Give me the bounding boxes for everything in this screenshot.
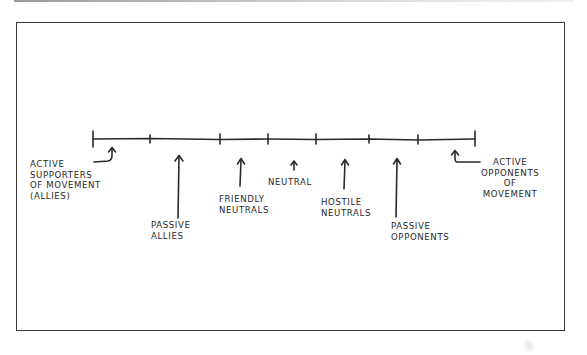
label-passive-opponents: PASSIVE OPPONENTS — [391, 221, 449, 242]
arrow-neutral — [291, 161, 297, 170]
arrow-hostile-neutrals — [342, 160, 349, 190]
label-passive-allies: PASSIVE ALLIES — [151, 220, 190, 241]
scan-smudge — [524, 340, 534, 352]
arrow-passive-allies — [175, 156, 183, 219]
label-active-opponents: ACTIVE OPPONENTS OF MOVEMENT — [481, 157, 539, 199]
label-hostile-neutrals: HOSTILE NEUTRALS — [321, 197, 371, 218]
label-neutral: NEUTRAL — [268, 177, 312, 188]
arrow-friendly-neutrals — [238, 159, 245, 187]
arrow-passive-opponents — [394, 159, 401, 218]
label-active-supporters: ACTIVE SUPPORTERS OF MOVEMENT (ALLIES) — [30, 159, 101, 201]
arrow-active-opponents — [452, 151, 481, 163]
label-friendly-neutrals: FRIENDLY NEUTRALS — [219, 194, 269, 215]
